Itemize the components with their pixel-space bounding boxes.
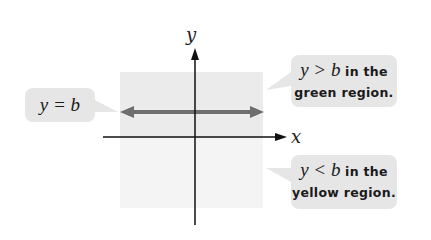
callout-top-text-2: green region. [291, 82, 397, 103]
y-axis-label: y [186, 24, 196, 45]
boundary-arrow-right-icon [250, 106, 264, 118]
callout-pointer-left [95, 100, 118, 112]
inequality-less: y < b [300, 159, 340, 180]
callout-line-label: y = b [25, 88, 95, 122]
boundary-arrow-left-icon [120, 106, 134, 118]
callout-pointer-bottom [266, 168, 291, 182]
y-axis-arrow-icon [191, 48, 199, 60]
callout-bottom-text-1: in the [340, 164, 387, 179]
inequality-greater: y > b [300, 59, 340, 80]
x-axis-label: x [291, 126, 301, 147]
callout-less-than: y < b in the yellow region. [291, 155, 397, 209]
line-equation: y = b [40, 94, 80, 116]
callout-pointer-top [266, 72, 291, 90]
x-axis-arrow-icon [275, 133, 287, 141]
callout-greater-than: y > b in the green region. [291, 55, 397, 107]
callout-top-text-1: in the [340, 64, 387, 79]
callout-bottom-text-2: yellow region. [291, 182, 397, 203]
